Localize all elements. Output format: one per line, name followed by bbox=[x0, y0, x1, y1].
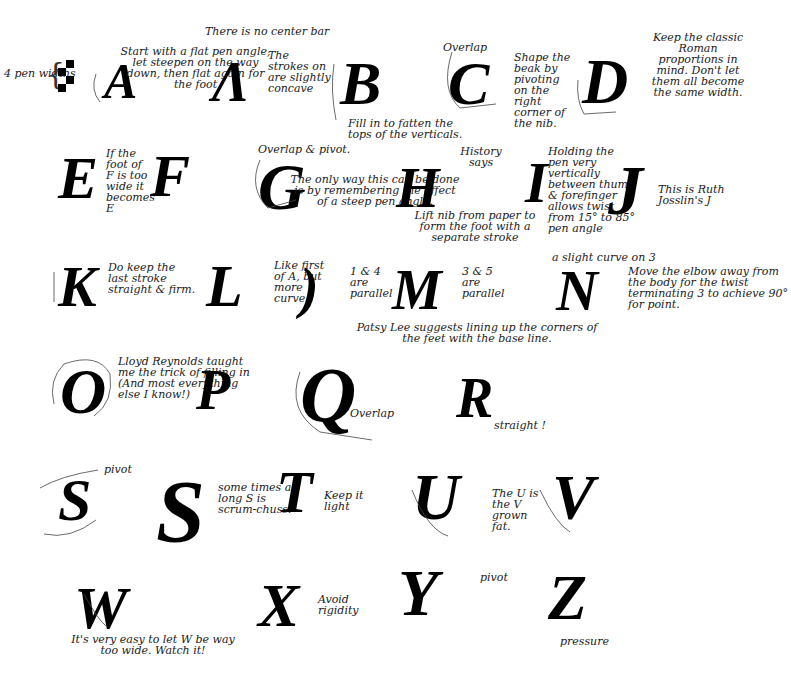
note-m-parallel-1: 1 & 4 are parallel bbox=[350, 266, 392, 299]
note-a-stroke: Start with a flat pen angle, let steepen… bbox=[118, 46, 273, 90]
note-y-pivot: pivot bbox=[480, 572, 508, 583]
letter-i: I bbox=[525, 154, 548, 212]
note-t-light: Keep it light bbox=[324, 490, 370, 512]
letter-k: K bbox=[58, 258, 97, 316]
letter-u: U bbox=[412, 464, 460, 530]
note-d-roman: Keep the classic Roman proportions in mi… bbox=[648, 32, 748, 98]
note-m-parallel-2: 3 & 5 are parallel bbox=[462, 266, 512, 299]
letter-y: Y bbox=[398, 560, 438, 626]
note-u-fat: The U is the V grown fat. bbox=[492, 488, 544, 532]
letter-d: D bbox=[582, 50, 628, 114]
letter-a: Λ bbox=[212, 54, 249, 110]
letter-f: F bbox=[150, 146, 190, 206]
note-n-elbow: Move the elbow away from the body for th… bbox=[628, 266, 788, 310]
letter-p: P bbox=[196, 362, 230, 418]
letter-j: J bbox=[608, 156, 643, 226]
letter-l: L bbox=[206, 256, 243, 316]
note-r-straight: straight ! bbox=[494, 420, 546, 431]
letter-o: O bbox=[60, 360, 106, 424]
note-h-lift: Lift nib from paper to form the foot wit… bbox=[405, 210, 545, 243]
letter-q: Q bbox=[300, 356, 356, 434]
note-w-wide: It's very easy to let W be way too wide.… bbox=[68, 634, 238, 656]
letter-v: V bbox=[552, 466, 595, 530]
note-patsy-lee: Patsy Lee suggests lining up the corners… bbox=[352, 322, 602, 344]
note-j-ruth: This is Ruth Josslin's J bbox=[658, 184, 738, 206]
note-q-overlap: Overlap bbox=[350, 408, 394, 419]
letter-z: Z bbox=[548, 566, 587, 630]
note-k-keep: Do keep the last stroke straight & firm. bbox=[108, 262, 196, 295]
letter-n: N bbox=[556, 262, 598, 320]
note-no-center-bar: There is no center bar bbox=[205, 26, 329, 37]
note-p-lloyd: Lloyd Reynolds taught me the trick of fi… bbox=[118, 356, 253, 400]
letter-e: E bbox=[58, 148, 98, 208]
letter-r: R bbox=[456, 370, 493, 426]
note-x-rigidity: Avoid rigidity bbox=[318, 594, 368, 616]
letter-m-first-stroke: ) bbox=[300, 260, 319, 316]
note-a-concave: The strokes on are slightly concave bbox=[268, 50, 332, 94]
letter-x: X bbox=[258, 574, 299, 636]
letter-c: C bbox=[448, 52, 489, 114]
note-c-beak: Shape the beak by pivoting on the right … bbox=[514, 52, 576, 129]
letter-b: B bbox=[340, 52, 381, 114]
note-s-pivot: pivot bbox=[104, 464, 132, 475]
letter-h: H bbox=[396, 160, 440, 216]
letter-m: M bbox=[392, 262, 442, 318]
letter-long-s: S bbox=[156, 468, 205, 556]
note-z-pressure: pressure bbox=[560, 636, 609, 647]
note-e-foot: If the foot of F is too wide it becomes … bbox=[106, 148, 148, 214]
note-h-history: History says bbox=[458, 146, 504, 168]
letter-t: T bbox=[276, 462, 313, 522]
letter-w: W bbox=[74, 578, 127, 638]
note-b-fill: Fill in to fatten the tops of the vertic… bbox=[348, 118, 478, 140]
letter-s: S bbox=[58, 470, 91, 530]
